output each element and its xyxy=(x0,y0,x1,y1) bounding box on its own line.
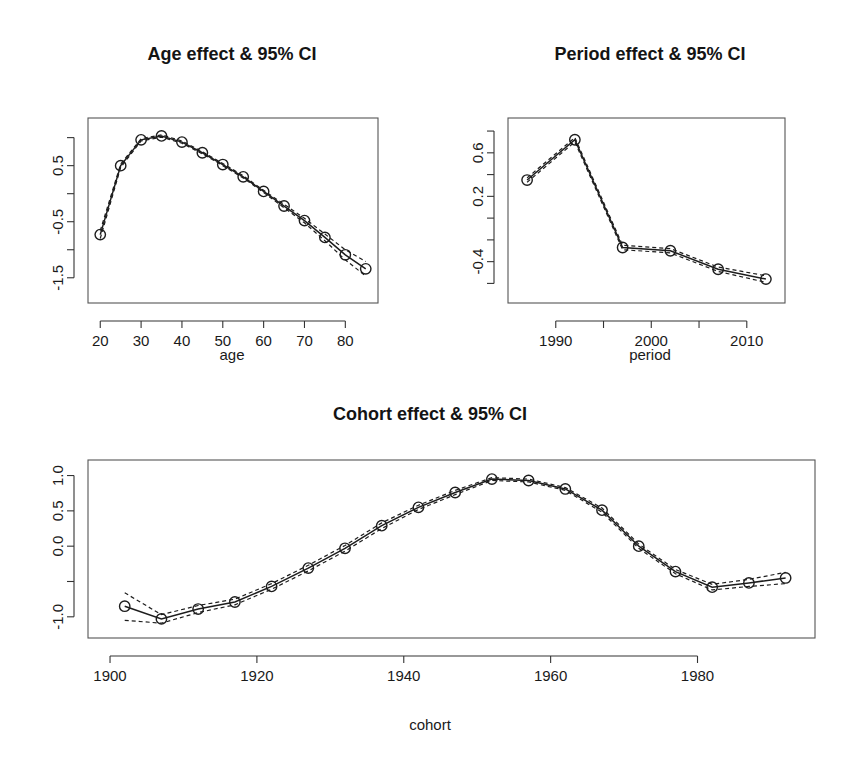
cohort-estimate-line xyxy=(125,479,786,619)
age-x-tick-label: 30 xyxy=(133,332,150,349)
cohort-y-tick-label: -1.0 xyxy=(49,604,66,630)
period-plot-area: 1990200020100.60.2-0.4 xyxy=(469,118,785,349)
age-x-tick-label: 80 xyxy=(337,332,354,349)
cohort-effect-plot: Cohort effect & 95% CI 19001920194019601… xyxy=(0,390,860,783)
age-ci-lower xyxy=(100,137,366,276)
period-estimate-line xyxy=(527,140,766,279)
cohort-y-tick-label: 1.0 xyxy=(49,465,66,486)
period-effect-plot: Period effect & 95% CI 1990200020100.60.… xyxy=(430,20,860,390)
cohort-x-tick-label: 1980 xyxy=(681,667,714,684)
age-plot-title: Age effect & 95% CI xyxy=(147,44,316,64)
cohort-x-tick-label: 1960 xyxy=(534,667,567,684)
cohort-x-tick-label: 1940 xyxy=(387,667,420,684)
cohort-x-tick-label: 1900 xyxy=(93,667,126,684)
period-y-tick-label: 0.2 xyxy=(469,186,486,207)
cohort-y-tick-label: 0.5 xyxy=(49,500,66,521)
age-x-tick-label: 60 xyxy=(255,332,272,349)
age-x-tick-label: 70 xyxy=(296,332,313,349)
age-y-tick-label: 0.5 xyxy=(49,155,66,176)
age-effect-plot: Age effect & 95% CI 203040506070800.5-0.… xyxy=(0,20,430,390)
period-plot-title: Period effect & 95% CI xyxy=(554,44,745,64)
period-x-tick-label: 2010 xyxy=(730,332,763,349)
cohort-ci-lower xyxy=(125,480,786,623)
age-x-axis-label: age xyxy=(219,346,244,363)
cohort-x-tick-label: 1920 xyxy=(240,667,273,684)
period-y-tick-label: -0.4 xyxy=(469,249,486,275)
age-plot-area: 203040506070800.5-0.5-1.5 xyxy=(49,118,378,349)
age-y-tick-label: -1.5 xyxy=(49,265,66,291)
period-data-point xyxy=(522,175,532,185)
age-y-tick-label: -0.5 xyxy=(49,209,66,235)
figure-canvas: Age effect & 95% CI 203040506070800.5-0.… xyxy=(0,0,860,783)
period-x-axis-label: period xyxy=(629,346,671,363)
age-x-tick-label: 40 xyxy=(174,332,191,349)
period-x-tick-label: 1990 xyxy=(539,332,572,349)
panel-cohort-effect: Cohort effect & 95% CI 19001920194019601… xyxy=(0,390,860,783)
period-y-tick-label: 0.6 xyxy=(469,142,486,163)
cohort-x-axis-label: cohort xyxy=(409,716,452,733)
panel-period-effect: Period effect & 95% CI 1990200020100.60.… xyxy=(430,20,860,390)
cohort-plot-title: Cohort effect & 95% CI xyxy=(333,404,527,424)
period-ci-lower xyxy=(527,142,766,282)
age-estimate-line xyxy=(100,136,366,269)
panel-age-effect: Age effect & 95% CI 203040506070800.5-0.… xyxy=(0,20,430,390)
period-ci-upper xyxy=(527,138,766,276)
cohort-plot-area: 190019201940196019801.00.50.0-1.0 xyxy=(49,460,815,684)
age-x-tick-label: 20 xyxy=(92,332,109,349)
cohort-y-tick-label: 0.0 xyxy=(49,536,66,557)
